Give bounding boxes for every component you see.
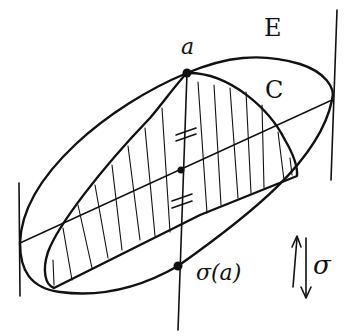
vertical-chord — [178, 73, 187, 330]
diameter-line — [20, 100, 332, 243]
equal-tick-upper — [176, 128, 196, 141]
region-C-hatching — [53, 82, 292, 285]
diagram-canvas — [0, 0, 350, 336]
label-point-a: a — [181, 36, 194, 58]
point-center — [178, 167, 185, 174]
label-region-C: C — [265, 78, 283, 102]
label-reflection-sigma: σ — [313, 252, 331, 278]
point-a — [183, 69, 192, 78]
label-reflected-point: σ(a) — [196, 262, 241, 284]
ellipse-E — [20, 57, 333, 293]
reflection-arrows — [292, 236, 311, 298]
region-C-boundary — [45, 73, 297, 288]
label-ellipse-E: E — [264, 16, 282, 40]
point-sigma-a — [174, 262, 183, 271]
